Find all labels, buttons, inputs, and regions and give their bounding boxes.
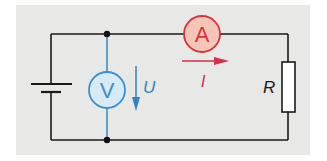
wires: [51, 34, 288, 140]
voltmeter-branch: V: [89, 34, 125, 140]
voltmeter-label: V: [100, 78, 115, 103]
resistor-label: R: [263, 78, 275, 97]
voltage-label: U: [143, 78, 156, 97]
ammeter: A: [184, 16, 220, 52]
circuit-diagram: V U A I R: [0, 0, 327, 161]
resistor-icon: [282, 62, 295, 112]
junction-top: [104, 31, 110, 37]
junction-bottom: [104, 137, 110, 143]
current-label: I: [201, 72, 206, 91]
current-arrow-icon: [182, 57, 229, 65]
battery-icon: [31, 84, 72, 92]
voltage-arrow-icon: [132, 66, 140, 111]
ammeter-label: A: [195, 22, 210, 47]
